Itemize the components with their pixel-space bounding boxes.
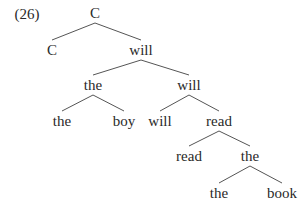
tree-node: the — [53, 113, 71, 129]
tree-node: boy — [113, 113, 136, 129]
tree-node: will — [177, 77, 200, 93]
tree-node: will — [129, 42, 152, 58]
tree-edge — [93, 60, 141, 75]
tree-node: the — [210, 185, 228, 201]
tree-node: C — [90, 5, 100, 21]
tree-edge — [219, 131, 250, 146]
tree-edge — [160, 95, 189, 111]
tree-node: read — [176, 148, 202, 164]
tree-edge — [93, 95, 124, 111]
tree-edge — [189, 95, 219, 111]
tree-edge — [95, 23, 141, 40]
tree-node: book — [267, 185, 297, 201]
tree-node: C — [47, 42, 57, 58]
tree-node: will — [148, 113, 171, 129]
tree-edge — [189, 131, 219, 146]
tree-node: the — [84, 77, 102, 93]
tree-edge — [250, 166, 282, 183]
tree-node: the — [241, 148, 259, 164]
tree-node: read — [206, 113, 232, 129]
tree-edges — [0, 0, 308, 211]
tree-edge — [219, 166, 250, 183]
tree-edge — [52, 23, 95, 40]
tree-edge — [141, 60, 189, 75]
tree-edge — [62, 95, 93, 111]
